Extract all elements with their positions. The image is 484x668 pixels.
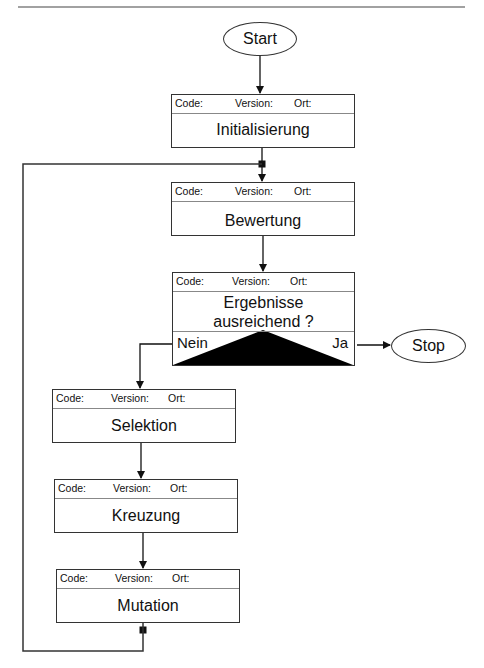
step-selektion: Code: Version: Ort: Selektion bbox=[52, 389, 236, 443]
step-label: Initialisierung bbox=[172, 114, 354, 139]
step-label: Mutation bbox=[57, 589, 239, 615]
code-field: Code: bbox=[56, 392, 84, 404]
step-header: Code: Version: Ort: bbox=[172, 95, 354, 114]
stop-terminal: Stop bbox=[391, 329, 466, 363]
step-header: Code: Version: Ort: bbox=[57, 570, 239, 589]
location-field: Ort: bbox=[170, 482, 188, 494]
location-field: Ort: bbox=[172, 572, 190, 584]
stop-label: Stop bbox=[412, 337, 445, 355]
decision-question: Ergebnisse ausreichend ? bbox=[173, 292, 354, 332]
no-label: Nein bbox=[177, 334, 208, 351]
location-field: Ort: bbox=[168, 392, 186, 404]
decision-ergebnisse-ausreichend: Code: Version: Ort: Ergebnisse ausreiche… bbox=[172, 272, 355, 366]
code-field: Code: bbox=[175, 97, 203, 109]
step-header: Code: Version: Ort: bbox=[55, 480, 237, 499]
version-field: Version: bbox=[232, 275, 270, 287]
step-initialisierung: Code: Version: Ort: Initialisierung bbox=[171, 94, 355, 148]
version-field: Version: bbox=[113, 482, 151, 494]
step-header: Code: Version: Ort: bbox=[53, 390, 235, 409]
step-label: Kreuzung bbox=[55, 499, 237, 525]
location-field: Ort: bbox=[294, 97, 312, 109]
decision-line-2: ausreichend ? bbox=[173, 312, 354, 331]
arrow-no-select bbox=[140, 344, 172, 388]
decision-line-1: Ergebnisse bbox=[173, 293, 354, 312]
code-field: Code: bbox=[175, 185, 203, 197]
location-field: Ort: bbox=[290, 275, 308, 287]
step-label: Bewertung bbox=[172, 202, 354, 230]
version-field: Version: bbox=[111, 392, 149, 404]
code-field: Code: bbox=[176, 275, 204, 287]
step-mutation: Code: Version: Ort: Mutation bbox=[56, 569, 240, 623]
code-field: Code: bbox=[60, 572, 88, 584]
version-field: Version: bbox=[235, 97, 273, 109]
step-header: Code: Version: Ort: bbox=[172, 183, 354, 202]
step-kreuzung: Code: Version: Ort: Kreuzung bbox=[54, 479, 238, 533]
start-label: Start bbox=[243, 30, 277, 48]
step-header: Code: Version: Ort: bbox=[173, 273, 354, 292]
yes-label: Ja bbox=[332, 334, 348, 351]
location-field: Ort: bbox=[294, 185, 312, 197]
code-field: Code: bbox=[58, 482, 86, 494]
start-terminal: Start bbox=[223, 22, 297, 56]
step-bewertung: Code: Version: Ort: Bewertung bbox=[171, 182, 355, 236]
version-field: Version: bbox=[115, 572, 153, 584]
version-field: Version: bbox=[235, 185, 273, 197]
step-label: Selektion bbox=[53, 409, 235, 435]
